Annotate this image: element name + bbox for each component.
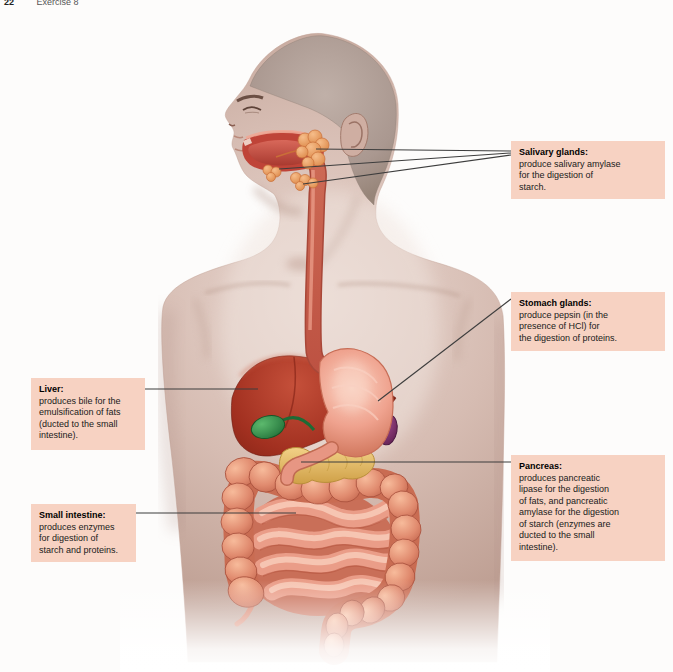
- callout-stomach-glands: Stomach glands: produce pepsin (in the p…: [511, 292, 665, 351]
- callout-pancreas-body: produces pancreatic lipase for the diges…: [519, 473, 657, 554]
- callout-small-intestine: Small intestine: produces enzymes for di…: [31, 504, 136, 562]
- callout-liver-body: produces bile for the emulsification of …: [39, 396, 137, 442]
- esophagus-shape: [310, 164, 322, 366]
- callout-small-intestine-body: produces enzymes for digestion of starch…: [39, 522, 128, 557]
- callout-pancreas: Pancreas: produces pancreatic lipase for…: [511, 455, 665, 561]
- callout-liver-title: Liver:: [39, 384, 137, 396]
- callout-salivary-glands-body: produce salivary amylase for the digesti…: [519, 159, 657, 194]
- callout-stomach-glands-title: Stomach glands:: [519, 298, 657, 310]
- bottom-fade: [120, 580, 550, 672]
- callout-pancreas-title: Pancreas:: [519, 461, 657, 473]
- callout-liver: Liver: produces bile for the emulsificat…: [31, 378, 145, 450]
- callout-salivary-glands-title: Salivary glands:: [519, 147, 657, 159]
- stomach-shape: [319, 349, 393, 457]
- callout-stomach-glands-body: produce pepsin (in the presence of HCl) …: [519, 310, 657, 345]
- callout-small-intestine-title: Small intestine:: [39, 510, 128, 522]
- textbook-page: 22 Exercise 8: [0, 0, 673, 672]
- callout-salivary-glands: Salivary glands: produce salivary amylas…: [511, 141, 665, 199]
